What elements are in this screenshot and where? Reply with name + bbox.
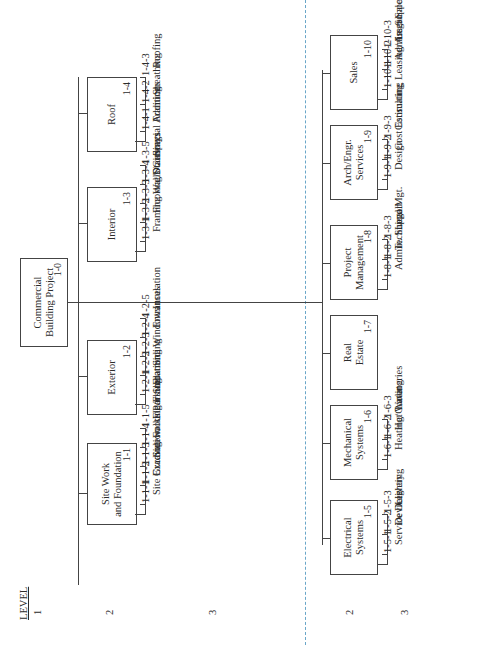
box-code: 1-8 [362, 230, 374, 243]
leaf-name: Insulation [151, 267, 162, 317]
level-3-label-lower: 3 [399, 610, 410, 615]
child-tick [140, 222, 146, 223]
child-tick [382, 69, 388, 70]
child-tick [382, 259, 388, 260]
trunk-link [78, 302, 323, 303]
branch-stem [78, 223, 87, 224]
branch-stem [78, 376, 87, 377]
branch-stem [322, 73, 330, 74]
leaf-code: 1-8-3 [382, 206, 393, 238]
box-title: Interior [106, 209, 118, 241]
box-title: Mechanical Systems [342, 418, 366, 467]
branch-box-1-2: Exterior1-2 [87, 340, 137, 415]
child-tick [382, 49, 388, 50]
child-stem [135, 141, 145, 142]
child-tick [382, 159, 388, 160]
child-tick [140, 77, 146, 78]
child-tick [140, 165, 146, 166]
root-stem [68, 302, 78, 303]
leaf-code: 1-10-3 [382, 16, 393, 48]
branch-box-1-1: Site Work and Foundation1-1 [87, 443, 137, 525]
child-tick [140, 375, 146, 376]
child-tick [140, 447, 146, 448]
child-tick [140, 131, 146, 132]
child-tick [140, 394, 146, 395]
child-tick [140, 241, 146, 242]
box-title: Exterior [106, 360, 118, 394]
box-code: 1-9 [362, 130, 374, 143]
box-code: 1-1 [121, 448, 133, 461]
branch-box-1-6: Mechanical Systems1-6 [330, 405, 378, 480]
branch-box-1-9: Arch/Engr. Services1-9 [330, 125, 378, 200]
upper-trunk [78, 77, 79, 585]
child-stem [377, 189, 387, 190]
child-stem [377, 564, 387, 565]
child-tick [140, 104, 146, 105]
branch-stem [322, 443, 330, 444]
leaf-name: Lighting [393, 469, 404, 513]
branch-box-1-7: Real Estate1-7 [330, 315, 378, 390]
child-tick [140, 184, 146, 185]
box-code: 1-7 [362, 320, 374, 333]
child-tick [382, 554, 388, 555]
wbs-leaf-item: 1-6-3Lavatories [382, 366, 404, 418]
child-stem [135, 514, 145, 515]
branch-box-1-5: Electrical Systems1-5 [330, 500, 378, 575]
leaf-code: 1-5-3 [382, 469, 393, 513]
child-tick [382, 439, 388, 440]
child-tick [382, 459, 388, 460]
leaf-code: 1-4-3 [140, 34, 151, 76]
level-heading: LEVEL [18, 587, 29, 620]
child-tick [140, 466, 146, 467]
box-code: 1-2 [121, 345, 133, 358]
leaf-name: Legal [393, 16, 404, 48]
child-tick [382, 419, 388, 420]
wbs-leaf-item: 1-5-3Lighting [382, 469, 404, 513]
root-box: Commercial Building Project1-0 [20, 258, 68, 347]
box-code: 1-3 [121, 192, 133, 205]
wbs-leaf-item: 1-8-3Legal [382, 206, 404, 238]
section-divider [305, 0, 306, 645]
leaf-code: 1-6-3 [382, 366, 393, 418]
child-tick [382, 239, 388, 240]
box-code: 1-4 [121, 82, 133, 95]
child-tick [382, 279, 388, 280]
level-2-label-upper: 2 [104, 610, 115, 615]
box-code: 1-5 [362, 505, 374, 518]
branch-stem [78, 113, 87, 114]
branch-box-1-10: Sales1-10 [330, 35, 378, 110]
wbs-leaf-item: 1-2-5Insulation [140, 267, 162, 317]
level-1-label: 1 [32, 610, 43, 615]
level-2-label-lower: 2 [344, 610, 355, 615]
child-stem [377, 99, 387, 100]
wbs-leaf-item: 1-10-3Legal [382, 16, 404, 48]
branch-stem [322, 353, 330, 354]
level-3-label-upper: 3 [207, 610, 218, 615]
child-stem [377, 469, 387, 470]
child-tick [140, 485, 146, 486]
box-code: 1-6 [362, 410, 374, 423]
child-tick [140, 356, 146, 357]
wbs-leaf-item: 1-9-3Consulting [382, 84, 404, 138]
child-tick [140, 337, 146, 338]
wbs-diagram: LEVEL 1 2 3 2 3 Commercial Building Proj… [0, 0, 487, 645]
child-tick [382, 514, 388, 515]
box-title: Sales [348, 61, 360, 83]
child-tick [382, 139, 388, 140]
box-title: Arch/Engr. Services [342, 139, 366, 185]
leaf-name: Lavatories [393, 366, 404, 418]
leaf-name: Roofing [151, 34, 162, 76]
child-tick [382, 179, 388, 180]
child-tick [140, 203, 146, 204]
wbs-leaf-item: 1-4-3Roofing [140, 34, 162, 76]
child-tick [140, 428, 146, 429]
lower-trunk [322, 70, 323, 545]
box-title: Electrical Systems [342, 517, 366, 557]
child-stem [135, 404, 145, 405]
leaf-name: Legal [393, 206, 404, 238]
branch-box-1-3: Interior1-3 [87, 187, 137, 262]
box-title: Roof [106, 104, 118, 125]
child-tick [140, 318, 146, 319]
box-title: Real Estate [342, 340, 366, 366]
branch-stem [322, 263, 330, 264]
